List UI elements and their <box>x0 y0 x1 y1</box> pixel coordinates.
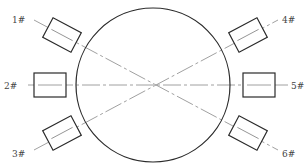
sensor-1 <box>43 18 82 52</box>
sensor-5 <box>243 73 275 97</box>
sensor-4 <box>229 18 268 52</box>
sensor-label-2: 2# <box>4 81 17 91</box>
sensor-3 <box>43 116 82 150</box>
sensor-label-1: 1# <box>12 15 25 25</box>
sensor-layout-diagram: 1# 2# 3# 4# 5# 6# <box>0 0 306 167</box>
sensor-6 <box>229 116 268 150</box>
sensor-label-6: 6# <box>282 149 295 159</box>
sensor-label-3: 3# <box>12 149 25 159</box>
sensor-label-4: 4# <box>282 15 295 25</box>
sensor-2 <box>34 73 66 97</box>
sensor-label-5: 5# <box>291 81 304 91</box>
